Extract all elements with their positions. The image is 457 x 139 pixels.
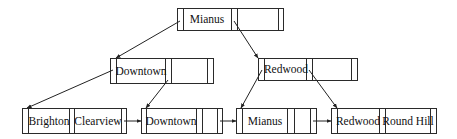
- leaf-node-3: Mianus: [237, 109, 317, 134]
- root-key-0: Mianus: [190, 13, 225, 25]
- edge-downtown-to-leaf-1: [27, 70, 113, 108]
- leaf-4-key-1: Round Hill: [382, 115, 433, 127]
- leaf-node-4: Redwood Round Hill: [332, 109, 437, 134]
- leaf-3-key-0: Mianus: [248, 115, 283, 127]
- leaf-node-1: Brighton Clearview: [23, 109, 127, 134]
- internal-node-downtown: Downtown: [111, 59, 214, 84]
- leaf-4-key-0: Redwood: [336, 115, 380, 127]
- edge-redwood-to-leaf-3: [241, 70, 262, 108]
- internal-redwood-key-0: Redwood: [264, 63, 308, 75]
- root-node: Mianus: [178, 9, 284, 31]
- leaf-1-key-1: Clearview: [74, 115, 122, 127]
- edge-downtown-to-leaf-2: [146, 80, 168, 108]
- internal-downtown-key-0: Downtown: [115, 65, 166, 77]
- leaf-node-2: Downtown: [142, 109, 223, 134]
- leaf-1-key-0: Brighton: [29, 115, 70, 128]
- internal-node-redwood: Redwood: [259, 59, 358, 81]
- leaf-2-key-0: Downtown: [145, 115, 196, 127]
- b-plus-tree-diagram: Mianus Downtown Redwood Brighton Clearvi…: [0, 0, 457, 139]
- edge-root-to-downtown: [116, 21, 180, 58]
